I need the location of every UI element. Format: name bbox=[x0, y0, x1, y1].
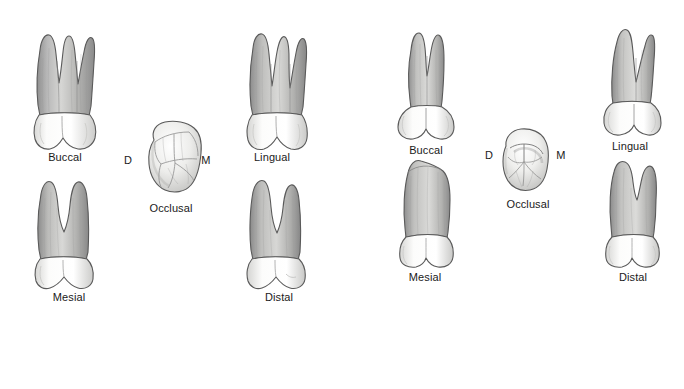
tooth-right-occlusal-distal-marker: D bbox=[483, 149, 495, 161]
tooth-left-lingual-image bbox=[240, 28, 314, 152]
tooth-right-occlusal-mesial-marker: M bbox=[554, 149, 568, 161]
tooth-right-lingual-label: Lingual bbox=[594, 140, 666, 152]
tooth-left-distal-image bbox=[240, 178, 314, 292]
tooth-right-occlusal-label: Occlusal bbox=[492, 198, 564, 210]
figure-canvas: Buccal bbox=[0, 0, 684, 389]
tooth-left-mesial-image bbox=[28, 178, 102, 292]
tooth-right-mesial-label: Mesial bbox=[389, 271, 461, 283]
tooth-left-occlusal-label: Occlusal bbox=[135, 202, 207, 214]
tooth-right-lingual-image bbox=[598, 24, 666, 138]
tooth-right-buccal-label: Buccal bbox=[390, 144, 462, 156]
tooth-right-distal-image bbox=[598, 158, 666, 270]
tooth-left-distal-label: Distal bbox=[243, 291, 315, 303]
tooth-left-buccal-image bbox=[28, 28, 102, 152]
tooth-right-buccal-image bbox=[392, 28, 460, 142]
tooth-left-occlusal-distal-marker: D bbox=[122, 154, 134, 166]
tooth-left-mesial-label: Mesial bbox=[33, 291, 105, 303]
tooth-right-mesial-image bbox=[392, 158, 460, 270]
tooth-left-occlusal-image bbox=[141, 118, 205, 196]
tooth-left-buccal-label: Buccal bbox=[29, 151, 101, 163]
tooth-left-lingual-label: Lingual bbox=[236, 151, 308, 163]
tooth-left-occlusal-mesial-marker: M bbox=[199, 154, 213, 166]
tooth-right-distal-label: Distal bbox=[597, 271, 669, 283]
tooth-right-occlusal-image bbox=[496, 126, 552, 194]
